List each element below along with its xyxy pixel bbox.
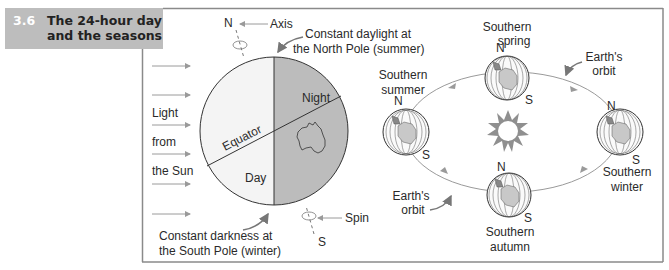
spin-label: Spin <box>345 211 369 225</box>
light-label-2: from <box>152 135 176 149</box>
darkness-note-1: Constant darkness at <box>159 229 273 243</box>
winter-label-2: winter <box>610 180 643 194</box>
orbit-label-top-2: orbit <box>592 64 616 78</box>
globe-spring <box>485 56 529 100</box>
spring-label-2: spring <box>498 34 531 48</box>
sun-icon <box>487 110 529 152</box>
globe-winter <box>597 109 643 155</box>
night-label: Night <box>302 91 331 105</box>
summer-s: S <box>422 148 430 162</box>
autumn-label-1: Southern <box>486 225 535 239</box>
summer-label-2: summer <box>381 83 424 97</box>
winter-n: N <box>607 99 616 113</box>
orbit-label-top-1: Earth's <box>586 50 623 64</box>
spring-s: S <box>525 93 533 107</box>
axis-label: Axis <box>270 17 293 31</box>
light-label-1: Light <box>152 106 179 120</box>
day-label: Day <box>245 171 266 185</box>
light-label-3: the Sun <box>152 164 193 178</box>
spring-label-1: Southern <box>483 20 532 34</box>
south-pole-label: S <box>318 235 326 249</box>
summer-label-1: Southern <box>379 68 428 82</box>
orbit-label-bottom-1: Earth's <box>393 189 430 203</box>
autumn-s: S <box>524 211 532 225</box>
daylight-note-2: the North Pole (summer) <box>293 42 424 56</box>
winter-label-1: Southern <box>603 165 652 179</box>
darkness-note-2: the South Pole (winter) <box>159 244 281 258</box>
autumn-label-2: autumn <box>490 240 530 254</box>
seasons-diagram: Light from the Sun Night Day Equator N A… <box>0 0 669 270</box>
autumn-n: N <box>497 160 506 174</box>
daylight-note-1: Constant daylight at <box>305 27 412 41</box>
earth-day-night: Night Day Equator <box>190 50 359 220</box>
orbit-label-bottom-2: orbit <box>401 203 425 217</box>
north-pole-label: N <box>224 16 233 30</box>
